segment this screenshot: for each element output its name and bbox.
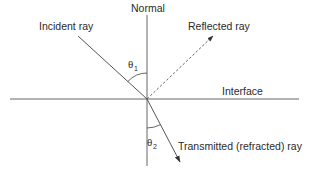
- theta1-subscript: 1: [134, 65, 138, 72]
- reflected-ray-label: Reflected ray: [188, 20, 251, 32]
- theta2-symbol: θ: [147, 136, 152, 148]
- normal-label: Normal: [131, 2, 165, 14]
- theta1-arc: [128, 73, 147, 82]
- transmitted-ray: [147, 99, 180, 162]
- theta1-symbol: θ: [128, 58, 133, 70]
- reflected-ray: [147, 36, 213, 99]
- theta2-subscript: 2: [153, 143, 157, 150]
- theta2-arc: [147, 125, 160, 128]
- refraction-diagram: Normal Incident ray Reflected ray Interf…: [0, 0, 318, 177]
- incident-ray-label: Incident ray: [39, 20, 94, 32]
- transmitted-ray-label: Transmitted (refracted) ray: [178, 140, 303, 152]
- interface-label: Interface: [222, 85, 263, 97]
